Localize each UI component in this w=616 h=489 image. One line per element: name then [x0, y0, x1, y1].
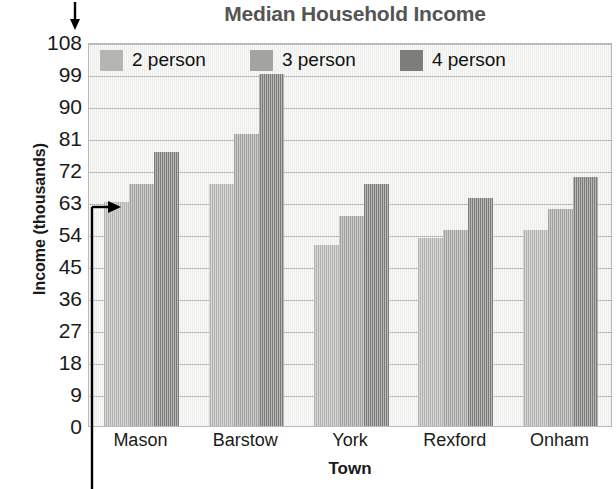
bar — [259, 74, 284, 426]
chart-title: Median Household Income — [120, 2, 590, 26]
x-tick-label: Onham — [507, 430, 612, 451]
y-tick-label: 72 — [30, 160, 82, 181]
bar — [129, 184, 154, 426]
y-tick-label: 63 — [30, 192, 82, 213]
y-tick-label: 54 — [30, 224, 82, 245]
bar — [314, 245, 339, 426]
chart-figure: Median Household Income Income (thousand… — [0, 0, 616, 489]
bar — [339, 216, 364, 426]
y-tick-label: 27 — [30, 320, 82, 341]
legend-item[interactable]: 4 person — [400, 49, 506, 71]
y-tick-label: 9 — [30, 384, 82, 405]
gridline — [89, 108, 611, 109]
x-axis-tick-labels: MasonBarstowYorkRexfordOnham — [88, 430, 612, 458]
bar — [234, 134, 259, 426]
y-tick-label: 45 — [30, 256, 82, 277]
gridline — [89, 44, 611, 45]
y-tick-label: 90 — [30, 96, 82, 117]
chart-legend: 2 person3 person4 person — [100, 47, 506, 73]
legend-label: 3 person — [282, 49, 356, 71]
y-tick-label: 81 — [30, 128, 82, 149]
x-axis-title: Town — [88, 459, 612, 479]
bar — [548, 209, 573, 426]
x-tick-label: Rexford — [402, 430, 507, 451]
legend-swatch-icon — [100, 50, 123, 71]
y-tick-label: 18 — [30, 352, 82, 373]
bar — [364, 184, 389, 426]
legend-swatch-icon — [400, 50, 423, 71]
y-tick-label: 0 — [30, 416, 82, 437]
legend-label: 2 person — [132, 49, 206, 71]
bar — [523, 230, 548, 426]
y-tick-label: 108 — [30, 32, 82, 53]
legend-swatch-icon — [250, 50, 273, 71]
y-tick-label: 36 — [30, 288, 82, 309]
y-axis-tick-labels: 0918273645546372819099108 — [26, 0, 82, 489]
bar — [573, 177, 598, 426]
y-tick-label: 99 — [30, 64, 82, 85]
bar — [468, 198, 493, 426]
x-tick-label: Barstow — [193, 430, 298, 451]
legend-item[interactable]: 3 person — [250, 49, 356, 71]
gridline — [89, 76, 611, 77]
bar — [418, 238, 443, 426]
bar — [154, 152, 179, 426]
x-tick-label: York — [298, 430, 403, 451]
legend-item[interactable]: 2 person — [100, 49, 206, 71]
gridline — [89, 140, 611, 141]
bar — [443, 230, 468, 426]
plot-area — [88, 43, 612, 427]
legend-label: 4 person — [432, 49, 506, 71]
bar — [209, 184, 234, 426]
x-tick-label: Mason — [88, 430, 193, 451]
bar — [104, 202, 129, 426]
